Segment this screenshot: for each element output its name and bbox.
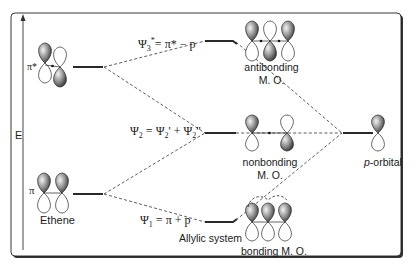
bonding-label: bonding M. O.: [241, 245, 307, 257]
pi-label: π: [29, 184, 35, 197]
energy-axis-label: E: [15, 129, 22, 141]
pi-star-label: π*: [27, 60, 37, 73]
psi3-equation: Ψ3*= π* − p: [138, 34, 195, 55]
mo-diagram: [0, 0, 414, 267]
antibonding-label-line2: M. O.: [244, 74, 299, 86]
allylic-system-label: Allylic system: [179, 232, 242, 244]
nonbonding-label-line1: nonbonding: [240, 156, 300, 168]
ethene-label: Ethene: [40, 214, 75, 226]
p-orbital-label: p-orbital: [364, 156, 402, 168]
antibonding-orbitals: [246, 21, 295, 61]
psi2-equation: Ψ2 = Ψ2' + Ψ2'': [130, 125, 201, 142]
psi1-equation: Ψ1 = π + p: [140, 214, 190, 231]
antibonding-label-line1: antibonding: [244, 61, 299, 73]
nonbonding-label-line2: M. O.: [240, 169, 300, 181]
